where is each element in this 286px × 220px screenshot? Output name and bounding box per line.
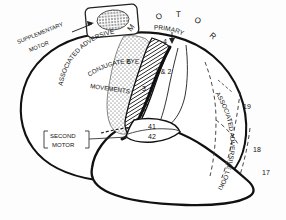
brain-diagram-figure: M O T O R PRIMARY SUPPLEMENTARY MOTOR AS… <box>0 0 286 220</box>
area-42-number: 42 <box>148 133 156 140</box>
second-motor-line1: SECOND <box>50 133 76 139</box>
area-18-number: 18 <box>253 146 261 153</box>
area-1-2-number: 1 & 2 <box>155 68 171 75</box>
motor-letter-t: T <box>176 10 181 19</box>
area-3-number: 3 <box>142 85 146 92</box>
area-17-number: 17 <box>262 169 270 176</box>
second-motor-line2: MOTOR <box>52 142 75 148</box>
area-4-number: 4 <box>163 38 167 45</box>
area-6-number: 6 <box>127 58 131 65</box>
area-41-number: 41 <box>148 123 156 130</box>
area-19-number: 19 <box>243 103 251 110</box>
brain-diagram-svg: M O T O R PRIMARY SUPPLEMENTARY MOTOR AS… <box>0 0 286 220</box>
